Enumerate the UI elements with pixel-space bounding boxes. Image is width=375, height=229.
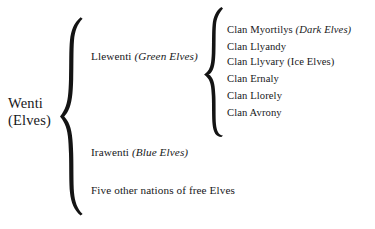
clan-label-llyvary: Clan Llyvary — [227, 56, 284, 67]
clan-label-llorely: Clan Llorely — [227, 90, 282, 101]
root-node-wenti: Wenti (Elves) — [8, 96, 51, 128]
branch-label-irawenti: Irawenti — [91, 146, 129, 158]
clan-label-llyandy: Clan Llyandy — [227, 41, 286, 52]
branch-node-irawenti: Irawenti (Blue Elves) — [91, 146, 188, 158]
clan-label-ernaly: Clan Ernaly — [227, 73, 279, 84]
elves-hierarchy-diagram: Wenti (Elves) Llewenti (Green Elves) Ira… — [0, 0, 375, 229]
clan-node-avrony: Clan Avrony — [227, 107, 282, 118]
branch-qualifier-irawenti: (Blue Elves) — [132, 146, 188, 158]
clan-qualifier-llyvary: (Ice Elves) — [287, 56, 334, 67]
clan-node-myortilys: Clan Myortilys (Dark Elves) — [227, 24, 351, 35]
root-label-line1: Wenti — [8, 96, 51, 112]
branch-label-other-nations: Five other nations of free Elves — [91, 184, 235, 196]
outer-brace-icon — [60, 16, 86, 218]
clan-label-avrony: Clan Avrony — [227, 107, 282, 118]
clan-node-llyvary: Clan Llyvary (Ice Elves) — [227, 56, 334, 67]
branch-node-llewenti: Llewenti (Green Elves) — [91, 50, 198, 62]
clan-label-myortilys: Clan Myortilys — [227, 24, 293, 35]
root-label-line2: (Elves) — [8, 113, 51, 129]
clan-node-ernaly: Clan Ernaly — [227, 73, 279, 84]
clan-node-llyandy: Clan Llyandy — [227, 41, 286, 52]
branch-label-llewenti: Llewenti — [91, 50, 132, 62]
clan-qualifier-myortilys: (Dark Elves) — [296, 24, 352, 35]
inner-brace-icon — [204, 6, 226, 138]
branch-qualifier-llewenti: (Green Elves) — [134, 50, 197, 62]
clan-node-llorely: Clan Llorely — [227, 90, 282, 101]
branch-node-other-nations: Five other nations of free Elves — [91, 184, 235, 196]
